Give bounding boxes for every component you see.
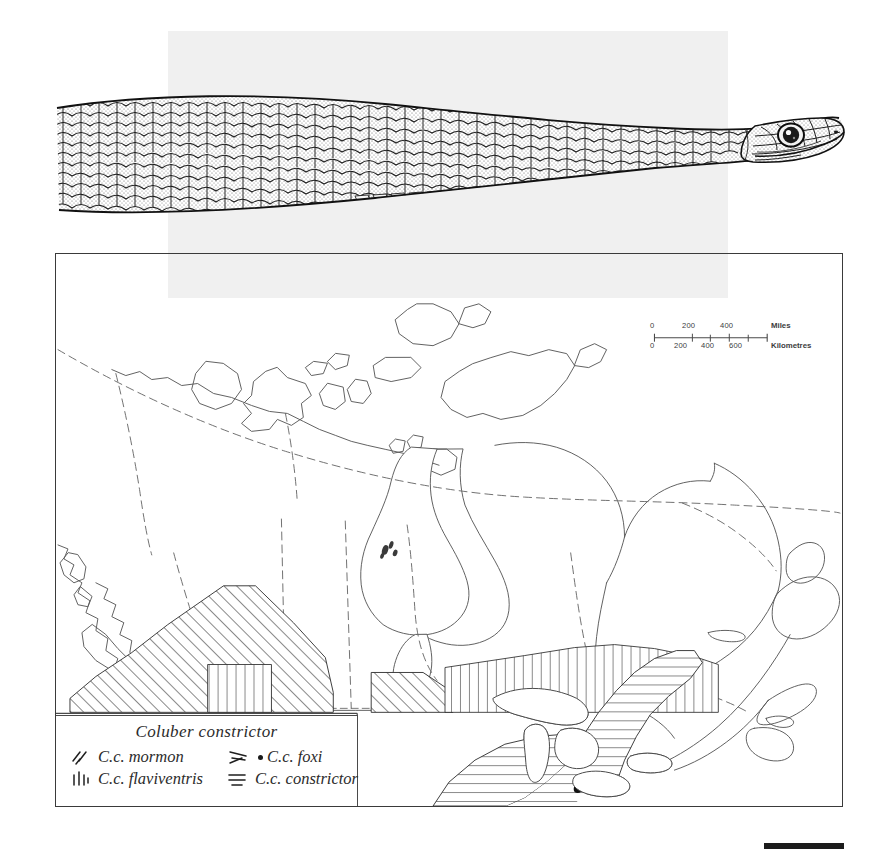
scale-miles-tick-0: 0: [650, 321, 654, 330]
scale-km-tick-400: 400: [701, 341, 714, 350]
scale-miles-tick-200: 200: [682, 321, 695, 330]
legend-row-1: C.c. mormon: [68, 746, 358, 768]
legend-label-flaviventris: C.c. flaviventris: [98, 769, 203, 789]
scale-km-tick-200: 200: [674, 341, 687, 350]
legend-title: Coluber constrictor: [56, 722, 357, 742]
legend-label-mormon: C.c. mormon: [98, 747, 184, 767]
scale-miles-unit: Miles: [771, 321, 791, 330]
foxi-locality-dot-icon: [258, 755, 263, 760]
scale-km-tick-0: 0: [650, 341, 654, 350]
legend-entry-constrictor: C.c. constrictor: [225, 769, 358, 789]
snake-illustration: [55, 88, 845, 228]
converging-lines-icon: [226, 747, 256, 767]
legend-entry-flaviventris: C.c. flaviventris: [68, 769, 225, 789]
legend-label-constrictor: C.c. constrictor: [255, 769, 358, 789]
legend-entry-foxi: C.c. foxi: [226, 747, 322, 767]
range-mormon: [70, 586, 333, 713]
legend-row-2: C.c. flaviventris C: [68, 768, 358, 790]
page-footer-bar: [764, 843, 844, 849]
legend-label-foxi: C.c. foxi: [267, 747, 322, 767]
figure-page: 0 200 400 Miles 0 200 400 600 Kilometres…: [0, 0, 892, 859]
scale-bar: 0 200 400 Miles 0 200 400 600 Kilometres: [650, 321, 830, 365]
distribution-map: 0 200 400 Miles 0 200 400 600 Kilometres…: [55, 253, 843, 807]
legend-rows: C.c. mormon: [68, 746, 358, 790]
map-legend: Coluber constrictor: [56, 715, 358, 807]
diagonal-hatch-icon: [68, 747, 98, 767]
range-mormon-secondary: [371, 672, 453, 712]
vertical-hatch-icon: [68, 769, 98, 789]
scale-km-tick-600: 600: [729, 341, 742, 350]
scale-miles-tick-400: 400: [720, 321, 733, 330]
scale-km-unit: Kilometres: [771, 341, 811, 350]
legend-entry-mormon: C.c. mormon: [68, 747, 226, 767]
horizontal-hatch-icon: [225, 769, 255, 789]
